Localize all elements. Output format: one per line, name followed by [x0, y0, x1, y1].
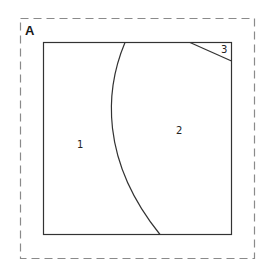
- panel-label: A: [25, 23, 35, 38]
- region-label-3: 3: [221, 44, 227, 55]
- dashed-panel-border: [21, 19, 255, 259]
- diagram-canvas: A 1 2 3: [0, 0, 262, 266]
- curve-divider: [111, 43, 160, 235]
- square-boundary: [44, 43, 232, 235]
- region-label-2: 2: [176, 125, 182, 136]
- region-label-1: 1: [77, 139, 83, 150]
